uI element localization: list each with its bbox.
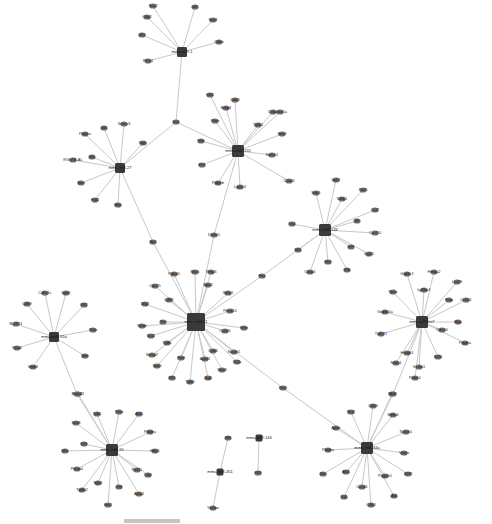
gene-node[interactable]: Met — [319, 471, 327, 476]
gene-node[interactable]: Stat3 — [217, 367, 227, 372]
gene-node[interactable]: Rnf11 — [132, 467, 143, 472]
gene-node[interactable]: Sox2 — [148, 3, 158, 8]
gene-node[interactable]: Vim — [197, 138, 205, 143]
gene-node[interactable]: Klf5 — [168, 375, 176, 380]
gene-node[interactable]: Pten — [211, 118, 219, 123]
gene-node[interactable]: Stat1 — [311, 190, 321, 195]
gene-node[interactable]: Pdgfra — [144, 429, 157, 434]
gene-node[interactable]: Nes — [77, 180, 84, 185]
gene-node[interactable]: Klf2 — [80, 302, 88, 307]
gene-node[interactable]: Nox4 — [12, 345, 22, 350]
gene-node[interactable]: Ccl2 — [371, 207, 380, 212]
gene-node[interactable]: Mdm4 — [387, 412, 399, 417]
gene-node[interactable]: Esr1 — [104, 502, 113, 507]
gene-node[interactable]: Bmp4 — [221, 105, 232, 110]
gene-node[interactable]: Nfkb1 — [337, 196, 348, 201]
gene-node[interactable]: Cdk6 — [208, 348, 218, 353]
gene-node[interactable]: Ngfr — [139, 140, 147, 145]
mirna-hub-node[interactable]: mmu-miR-92a — [41, 332, 67, 342]
gene-node[interactable]: Gabbr1 — [400, 271, 414, 276]
gene-node[interactable]: Pdgfra — [79, 131, 92, 136]
gene-node[interactable]: Tgfbi — [163, 340, 172, 345]
gene-node[interactable]: Vcam1 — [413, 364, 426, 369]
bridge-gene-node[interactable]: Irs1 — [172, 119, 180, 124]
gene-node[interactable]: Cdc34 — [436, 327, 448, 332]
gene-node[interactable]: Sox8 — [71, 420, 81, 425]
mirna-hub-node[interactable]: mmu-miR-451 — [207, 469, 233, 476]
gene-node[interactable]: Tab1 — [93, 411, 102, 416]
gene-node[interactable]: Pdgfra — [322, 447, 335, 452]
gene-node[interactable]: Cd69 — [22, 301, 32, 306]
gene-node[interactable]: Pten — [89, 327, 97, 332]
gene-node[interactable]: Il6 — [353, 218, 360, 223]
gene-node[interactable]: Yy1 — [340, 494, 348, 499]
gene-node[interactable]: Kif1 — [80, 441, 88, 446]
gene-node[interactable]: Cdc25 — [149, 283, 161, 288]
gene-node[interactable]: Ifit1 — [294, 247, 302, 252]
gene-node[interactable]: Id1 — [88, 154, 95, 159]
gene-node[interactable]: Timp3 — [206, 269, 218, 274]
gene-node[interactable]: Jag1 — [204, 375, 213, 380]
gene-node[interactable]: E2f3 — [404, 471, 413, 476]
gene-node[interactable]: Mx1 — [324, 259, 332, 264]
gene-node[interactable]: Il12a — [233, 359, 242, 364]
gene-node[interactable]: Ywhaz — [207, 505, 219, 510]
gene-node[interactable]: Bcl2 — [147, 333, 156, 338]
gene-node[interactable]: Cd44 — [368, 403, 378, 408]
gene-node[interactable]: Sox9 — [277, 131, 287, 136]
gene-node[interactable]: Hmga2 — [428, 269, 442, 274]
gene-node[interactable]: Gli3 — [138, 32, 146, 37]
gene-node[interactable]: Cdh1 — [164, 297, 174, 302]
mirna-hub-node[interactable]: mmu-miR-144 — [246, 435, 272, 442]
gene-node[interactable]: Cdkn1a — [273, 109, 288, 114]
gene-node[interactable]: Myc — [454, 319, 461, 324]
bridge-gene-node[interactable]: Sp1 — [149, 239, 157, 244]
gene-node[interactable]: Pdgfra — [459, 340, 472, 345]
gene-node[interactable]: Fgf2 — [91, 197, 100, 202]
bridge-gene-node[interactable]: Atf2 — [389, 391, 397, 396]
gene-node[interactable]: Cd44 — [230, 97, 240, 102]
gene-node[interactable]: Akt1 — [342, 469, 351, 474]
gene-node[interactable]: Lin28 — [452, 279, 463, 284]
gene-node[interactable]: Trim71 — [375, 331, 388, 336]
gene-node[interactable]: Cdk4 — [366, 502, 376, 507]
bridge-gene-node[interactable]: Gata1 — [72, 391, 84, 396]
gene-node[interactable]: Fasl — [177, 355, 185, 360]
gene-node[interactable]: Spry1 — [223, 290, 234, 295]
mirna-hub-node[interactable]: mmu-miR-21 — [184, 313, 208, 331]
gene-node[interactable]: Cdkn1c — [38, 290, 52, 295]
gene-node[interactable]: Hbp1 — [150, 448, 160, 453]
gene-node[interactable]: Pten — [240, 325, 248, 330]
bridge-gene-node[interactable]: Fos — [258, 273, 265, 278]
gene-node[interactable]: Irak1 — [332, 177, 342, 182]
gene-node[interactable]: Sema3 — [118, 121, 131, 126]
gene-node[interactable]: Igf2bp1 — [417, 287, 431, 292]
gene-node[interactable]: Ccnd1 — [283, 178, 295, 183]
gene-node[interactable]: Itga5 — [62, 290, 72, 295]
gene-node[interactable]: Rhob — [137, 323, 147, 328]
gene-node[interactable]: Axl — [390, 493, 397, 498]
gene-node[interactable]: Il1b — [343, 267, 351, 272]
gene-node[interactable]: Casp1 — [304, 269, 316, 274]
gene-node[interactable]: Akt1 — [135, 411, 144, 416]
gene-node[interactable]: Nras — [389, 289, 397, 294]
gene-node[interactable]: Isg15 — [364, 251, 375, 256]
gene-node[interactable]: RG67B-AL — [63, 157, 83, 162]
gene-node[interactable]: Nfia — [61, 448, 69, 453]
gene-node[interactable]: Id2 — [191, 4, 198, 9]
gene-node[interactable]: Klf3 — [254, 470, 262, 475]
gene-node[interactable]: Bim — [81, 353, 89, 358]
gene-node[interactable]: Prdm1 — [409, 375, 422, 380]
gene-node[interactable]: Pdgfrb1 — [378, 473, 393, 478]
gene-node[interactable]: Pdgfrb — [212, 180, 225, 185]
gene-node[interactable]: Btg2 — [141, 301, 150, 306]
bridge-gene-node[interactable]: Ets1 — [279, 385, 288, 390]
gene-node[interactable]: Pdcd4 — [168, 271, 180, 276]
gene-node[interactable]: Gabbr2a — [377, 309, 393, 314]
gene-node[interactable]: Apoe — [331, 425, 341, 430]
gene-node[interactable]: Fn1 — [198, 162, 206, 167]
gene-node[interactable]: Sgk1 — [93, 480, 103, 485]
gene-node[interactable]: Sox5 — [152, 363, 162, 368]
gene-node[interactable]: Notch1 — [400, 429, 413, 434]
gene-node[interactable]: Sox1 — [208, 17, 218, 22]
